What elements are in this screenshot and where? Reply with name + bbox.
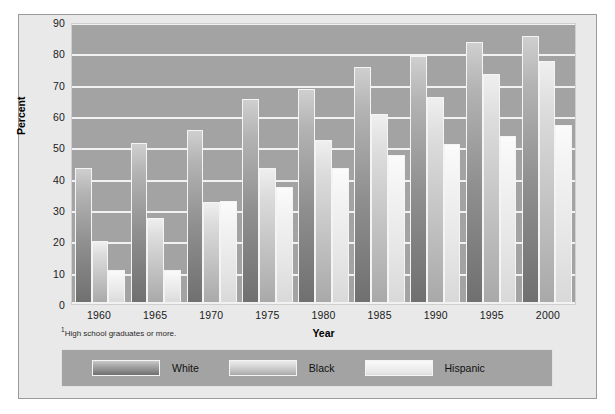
bar-white-1980 [298,89,315,304]
bar-group [407,24,463,304]
bar-group [296,24,352,304]
chart-legend: WhiteBlackHispanic [61,349,553,387]
y-tick-label: 60 [21,111,65,123]
y-tick-label: 80 [21,48,65,60]
legend-label: White [172,362,199,374]
footnote-text: High school graduates or more. [65,329,177,338]
y-axis-ticks: 9080706050403020100 [19,23,65,305]
bar-black-1960 [92,241,109,304]
legend-label: Black [309,362,335,374]
plot-area-wrapper [71,23,576,305]
x-tick-label: 1980 [295,309,351,325]
x-tick-label: 2000 [520,309,576,325]
bar-group [351,24,407,304]
y-tick-label: 20 [21,236,65,248]
bar-white-1990 [410,56,427,304]
bar-black-1965 [147,218,164,304]
legend-item-black[interactable]: Black [229,360,335,376]
chart-footnote: 1High school graduates or more. [61,326,176,338]
bar-white-1960 [75,168,92,304]
legend-swatch-hispanic [365,360,433,376]
bar-hispanic-1980 [332,168,349,304]
bar-group [519,24,575,304]
bar-hispanic-1995 [500,136,517,304]
y-tick-label: 50 [21,142,65,154]
bar-black-1975 [259,168,276,304]
y-tick-label: 70 [21,80,65,92]
chart-panel: Percent 9080706050403020100 196019651970… [18,14,597,399]
bar-hispanic-1985 [388,155,405,304]
x-tick-label: 1990 [408,309,464,325]
y-tick-label: 90 [21,17,65,29]
y-tick-label: 30 [21,205,65,217]
plot-area [71,23,576,305]
bar-group [128,24,184,304]
bar-white-1970 [187,130,204,304]
bar-black-1980 [315,140,332,305]
bar-white-1975 [242,99,259,304]
x-axis-line [72,302,575,304]
bar-hispanic-1990 [444,144,461,304]
bar-hispanic-1975 [276,187,293,305]
bar-groups [72,24,575,304]
bar-black-1970 [203,202,220,304]
x-axis-ticks: 196019651970197519801985199019952000 [71,309,576,325]
legend-label: Hispanic [445,362,485,374]
bar-hispanic-1970 [220,201,237,304]
x-tick-label: 1985 [352,309,408,325]
x-tick-label: 1975 [239,309,295,325]
bar-hispanic-1960 [108,270,125,304]
x-tick-label: 1970 [183,309,239,325]
bar-black-1990 [427,97,444,304]
bar-group [184,24,240,304]
legend-swatch-black [229,360,297,376]
bar-group [463,24,519,304]
y-tick-label: 10 [21,268,65,280]
x-tick-label: 1995 [464,309,520,325]
bar-group [72,24,128,304]
bar-white-2000 [522,36,539,304]
chart-root: Percent 9080706050403020100 196019651970… [0,0,615,414]
legend-item-hispanic[interactable]: Hispanic [365,360,485,376]
x-tick-label: 1965 [127,309,183,325]
bar-hispanic-1965 [164,270,181,304]
bar-white-1965 [131,143,148,304]
bar-white-1995 [466,42,483,304]
bar-black-1985 [371,114,388,304]
x-tick-label: 1960 [71,309,127,325]
bar-white-1985 [354,67,371,304]
legend-item-white[interactable]: White [92,360,199,376]
bar-black-1995 [483,74,500,304]
y-tick-label: 0 [21,299,65,311]
bar-black-2000 [539,61,556,304]
legend-swatch-white [92,360,160,376]
bar-group [240,24,296,304]
y-tick-label: 40 [21,174,65,186]
bar-hispanic-2000 [555,125,572,304]
